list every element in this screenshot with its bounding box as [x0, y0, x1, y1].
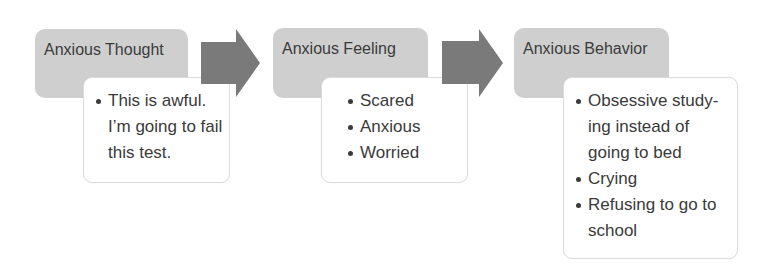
step-title: Anxious Thought	[44, 41, 164, 58]
list-item: This is awful. I’m going to fail this te…	[94, 88, 223, 166]
list-item: Worried	[346, 140, 461, 166]
list-item: Refusing to go to school	[574, 192, 731, 244]
right-arrow-icon	[442, 29, 504, 97]
bullet-list: This is awful. I’m going to fail this te…	[94, 88, 223, 166]
list-item: Obsessive study-ing instead of going to …	[574, 88, 731, 166]
list-item: Anxious	[346, 114, 461, 140]
bullet-list: Scared Anxious Worried	[346, 88, 461, 166]
step-title: Anxious Feeling	[282, 40, 396, 57]
step-details-anxious-behavior: Obsessive study-ing instead of going to …	[563, 77, 738, 259]
bullet-list: Obsessive study-ing instead of going to …	[574, 88, 731, 244]
right-arrow-icon	[201, 29, 261, 97]
anxiety-cycle-diagram: Anxious Thought This is awful. I’m going…	[0, 0, 777, 274]
step-title: Anxious Behavior	[523, 40, 648, 57]
list-item: Crying	[574, 166, 731, 192]
